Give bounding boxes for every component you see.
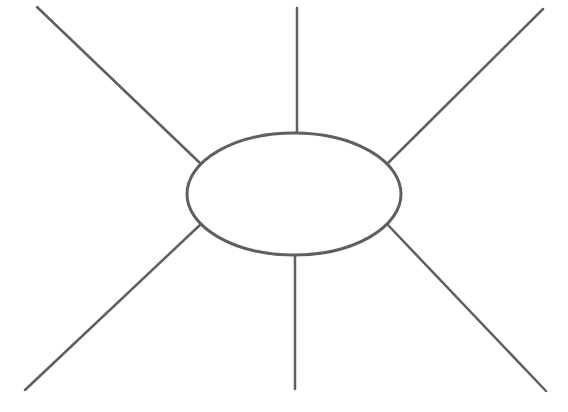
spoke-bottom-left [25, 224, 201, 390]
spoke-top-left [37, 7, 201, 164]
spider-diagram [0, 0, 568, 412]
spoke-top-right [387, 9, 543, 164]
spoke-bottom-right [387, 224, 546, 391]
center-ellipse [187, 133, 401, 255]
